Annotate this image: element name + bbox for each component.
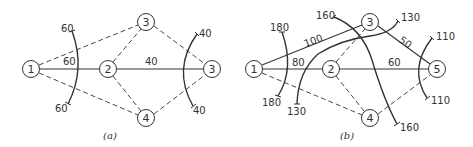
- cut-label: 110: [431, 95, 450, 106]
- svg-text:2: 2: [328, 63, 335, 76]
- svg-text:3: 3: [143, 16, 150, 29]
- svg-text:4: 4: [367, 112, 374, 125]
- cut-label: 130: [287, 106, 306, 117]
- diagram-a: 60 60 60 40 40 40 1 2 3 3 4 (a): [23, 14, 221, 142]
- node-4: 4: [362, 110, 379, 127]
- edge-3-3: [154, 26, 205, 64]
- cut-label: 130: [401, 12, 420, 23]
- cut-label: 60: [55, 103, 68, 114]
- node-3-top: 3: [138, 14, 155, 31]
- cut-right: [183, 34, 197, 106]
- node-5: 5: [429, 61, 446, 78]
- svg-text:1: 1: [251, 63, 258, 76]
- node-3: 3: [362, 14, 379, 31]
- cut-label: 40: [199, 28, 212, 39]
- edge-label: 60: [63, 56, 76, 67]
- node-1: 1: [23, 61, 40, 78]
- diagram-b: 180 180 100 80 60 50 160 160 130 130 110…: [246, 10, 456, 141]
- edge-1-4: [262, 73, 362, 115]
- svg-text:1: 1: [28, 63, 35, 76]
- cut-label: 110: [436, 31, 455, 42]
- edge-label: 60: [388, 57, 401, 68]
- node-1: 1: [246, 61, 263, 78]
- edge-label: 80: [292, 57, 305, 68]
- caption-b: (b): [340, 130, 354, 141]
- node-3-right: 3: [204, 61, 221, 78]
- svg-text:5: 5: [434, 63, 441, 76]
- cut-label: 160: [316, 10, 335, 21]
- edge-label: 50: [397, 34, 414, 50]
- cut-label: 40: [193, 105, 206, 116]
- node-2: 2: [100, 61, 117, 78]
- cut-label: 60: [61, 23, 74, 34]
- node-4: 4: [138, 110, 155, 127]
- edge-label: 100: [302, 32, 324, 49]
- svg-text:4: 4: [143, 112, 150, 125]
- svg-text:3: 3: [209, 63, 216, 76]
- edge-label: 40: [145, 56, 158, 67]
- edge-1-4: [39, 73, 138, 115]
- cut-label: 180: [262, 97, 281, 108]
- cut-label: 160: [400, 122, 419, 133]
- node-2: 2: [323, 61, 340, 78]
- edge-2-3: [113, 29, 141, 62]
- edge-1-3: [39, 25, 138, 65]
- svg-text:3: 3: [367, 16, 374, 29]
- network-cut-figure: 60 60 60 40 40 40 1 2 3 3 4 (a): [0, 0, 473, 147]
- edge-4-5: [378, 75, 430, 114]
- cut-left: [68, 31, 78, 104]
- cut-180: [278, 32, 288, 96]
- cut-label: 180: [270, 22, 289, 33]
- svg-text:2: 2: [105, 63, 112, 76]
- caption-a: (a): [103, 130, 117, 141]
